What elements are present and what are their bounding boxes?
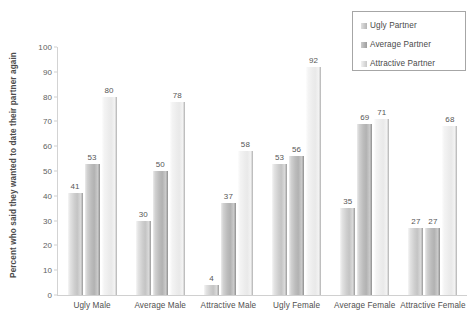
y-axis-tick-40: 40 (20, 191, 52, 200)
bar[interactable] (68, 193, 83, 295)
bar-wrapper: 50 (153, 47, 168, 295)
bar-value-label: 71 (377, 108, 386, 117)
bar-value-label: 53 (88, 153, 97, 162)
bar-group: 535692 (272, 47, 321, 295)
bar-wrapper: 78 (170, 47, 185, 295)
y-axis-tick-60: 60 (20, 142, 52, 151)
bar-value-label: 41 (71, 182, 80, 191)
legend-swatch-icon (361, 23, 367, 29)
bar-value-label: 53 (275, 153, 284, 162)
bar-group: 356971 (340, 47, 389, 295)
bar[interactable] (306, 67, 321, 295)
bar-wrapper: 53 (272, 47, 287, 295)
legend-label: Attractive Partner (370, 59, 435, 68)
legend-item[interactable]: Ugly Partner (361, 20, 417, 31)
bar-value-label: 50 (156, 160, 165, 169)
bar-wrapper: 69 (357, 47, 372, 295)
bar-value-label: 37 (224, 192, 233, 201)
bar[interactable] (136, 221, 151, 295)
y-axis-tick-10: 10 (20, 266, 52, 275)
bar[interactable] (204, 285, 219, 295)
y-axis-tick-50: 50 (20, 167, 52, 176)
bar-value-label: 35 (343, 197, 352, 206)
bar[interactable] (221, 203, 236, 295)
legend-label: Ugly Partner (370, 21, 417, 30)
x-axis-label-ugly-female: Ugly Female (263, 301, 331, 310)
bar-value-label: 56 (292, 145, 301, 154)
x-axis-line (57, 295, 467, 296)
bar[interactable] (85, 164, 100, 295)
bar-wrapper: 35 (340, 47, 355, 295)
bar[interactable] (340, 208, 355, 295)
bar-chart: Percent who said they wanted to date the… (0, 0, 471, 329)
x-axis-label-attractive-female: Attractive Female (399, 301, 467, 310)
bar-wrapper: 41 (68, 47, 83, 295)
y-axis-tick-20: 20 (20, 241, 52, 250)
bar-value-label: 27 (428, 217, 437, 226)
bar[interactable] (425, 228, 440, 295)
bar-wrapper: 30 (136, 47, 151, 295)
plot-area: 41538030507843758535692356971272768 (58, 47, 467, 295)
bar-group: 415380 (68, 47, 117, 295)
bar-wrapper: 4 (204, 47, 219, 295)
y-axis-tick-30: 30 (20, 216, 52, 225)
legend-item[interactable]: Average Partner (361, 39, 431, 50)
bar-group: 272768 (408, 47, 457, 295)
bar-wrapper: 27 (408, 47, 423, 295)
bar-value-label: 68 (445, 115, 454, 124)
bar-value-label: 80 (105, 86, 114, 95)
bar-value-label: 58 (241, 140, 250, 149)
bar[interactable] (357, 124, 372, 295)
bar-value-label: 69 (360, 113, 369, 122)
bar-group: 43758 (204, 47, 253, 295)
legend: Ugly PartnerAverage PartnerAttractive Pa… (352, 11, 466, 71)
y-axis-tick-0: 0 (20, 291, 52, 300)
bar[interactable] (374, 119, 389, 295)
bar[interactable] (289, 156, 304, 295)
bar-wrapper: 71 (374, 47, 389, 295)
bar[interactable] (272, 164, 287, 295)
bar-value-label: 30 (139, 210, 148, 219)
bar[interactable] (102, 97, 117, 295)
bar[interactable] (238, 151, 253, 295)
y-axis-tick-100: 100 (20, 43, 52, 52)
legend-item[interactable]: Attractive Partner (361, 58, 435, 69)
bar-wrapper: 53 (85, 47, 100, 295)
x-axis-label-average-male: Average Male (126, 301, 194, 310)
bar-wrapper: 58 (238, 47, 253, 295)
bar[interactable] (153, 171, 168, 295)
y-axis-tick-70: 70 (20, 117, 52, 126)
bar-wrapper: 27 (425, 47, 440, 295)
bar-wrapper: 80 (102, 47, 117, 295)
x-axis-label-ugly-male: Ugly Male (58, 301, 126, 310)
legend-label: Average Partner (370, 40, 431, 49)
legend-swatch-icon (361, 42, 367, 48)
bar[interactable] (170, 102, 185, 295)
bar-value-label: 92 (309, 56, 318, 65)
bar[interactable] (408, 228, 423, 295)
bar-wrapper: 68 (442, 47, 457, 295)
y-axis-tick-80: 80 (20, 92, 52, 101)
bar-value-label: 4 (209, 274, 214, 283)
y-axis-tick-90: 90 (20, 67, 52, 76)
bar-value-label: 27 (411, 217, 420, 226)
legend-swatch-icon (361, 61, 367, 67)
x-axis-label-attractive-male: Attractive Male (194, 301, 262, 310)
bar-wrapper: 37 (221, 47, 236, 295)
bar-wrapper: 56 (289, 47, 304, 295)
bar-group: 305078 (136, 47, 185, 295)
bar-value-label: 78 (173, 91, 182, 100)
bar-wrapper: 92 (306, 47, 321, 295)
bar[interactable] (442, 126, 457, 295)
x-axis-label-average-female: Average Female (331, 301, 399, 310)
